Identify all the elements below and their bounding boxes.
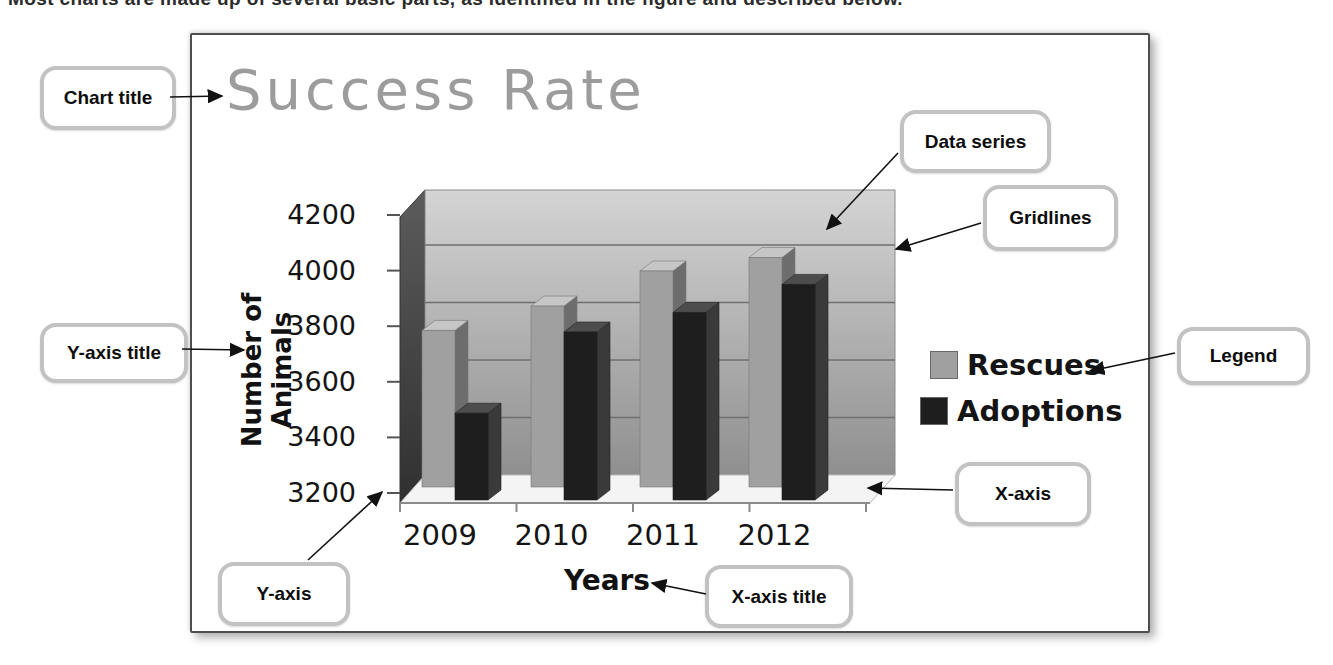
x-category-label-2010: 2010 xyxy=(496,518,608,552)
legend-item-rescues: Rescues xyxy=(930,348,1123,382)
callout-y-axis-title: Y-axis title xyxy=(40,323,188,383)
callout-chart-title: Chart title xyxy=(40,66,176,130)
x-category-label-2009: 2009 xyxy=(384,518,496,552)
y-tick-label-3800: 3800 xyxy=(246,310,356,341)
y-tick-label-3600: 3600 xyxy=(246,366,356,397)
x-axis-title-text: Years xyxy=(547,564,667,597)
rescues-swatch xyxy=(930,351,958,379)
y-tick-label-3200: 3200 xyxy=(246,477,356,508)
legend-item-adoptions: Adoptions xyxy=(920,394,1123,428)
cropped-paragraph-text: Most charts are made up of several basic… xyxy=(8,0,1108,10)
callout-legend: Legend xyxy=(1177,327,1310,385)
chart-legend: Rescues Adoptions xyxy=(920,348,1123,440)
callout-x-axis-title: X-axis title xyxy=(705,565,853,628)
callout-y-axis: Y-axis xyxy=(218,562,350,626)
adoptions-label: Adoptions xyxy=(957,394,1123,428)
adoptions-swatch xyxy=(920,397,948,425)
x-category-label-2012: 2012 xyxy=(719,518,831,552)
rescues-label: Rescues xyxy=(967,348,1101,382)
chart-title-text: Success Rate xyxy=(226,57,646,122)
textbook-page: Most charts are made up of several basic… xyxy=(0,0,1333,665)
y-tick-label-3400: 3400 xyxy=(246,421,356,452)
y-tick-label-4200: 4200 xyxy=(246,199,356,230)
x-category-label-2011: 2011 xyxy=(607,518,719,552)
callout-data-series: Data series xyxy=(900,110,1051,173)
callout-x-axis: X-axis xyxy=(955,462,1091,526)
y-tick-label-4000: 4000 xyxy=(246,255,356,286)
callout-gridlines: Gridlines xyxy=(983,185,1118,251)
